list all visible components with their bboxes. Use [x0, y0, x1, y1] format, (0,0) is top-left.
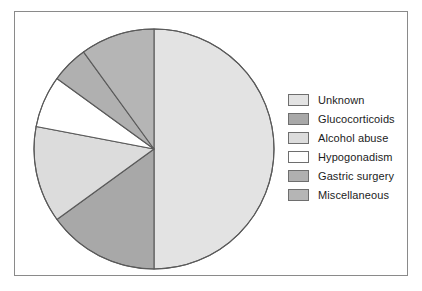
legend-item-hypogonadism[interactable]: Hypogonadism [288, 147, 416, 166]
legend-label-alcohol-abuse: Alcohol abuse [318, 132, 388, 144]
pie-slice-group [34, 29, 274, 269]
legend-swatch-gastric-surgery [288, 170, 309, 182]
legend-swatch-unknown [288, 94, 309, 106]
pie-chart-svg [31, 26, 277, 272]
legend-item-glucocorticoids[interactable]: Glucocorticoids [288, 109, 416, 128]
legend-swatch-glucocorticoids [288, 113, 309, 125]
legend-label-glucocorticoids: Glucocorticoids [318, 113, 395, 125]
legend-label-miscellaneous: Miscellaneous [318, 189, 389, 201]
pie-slice-unknown[interactable] [154, 29, 274, 269]
legend: Unknown Glucocorticoids Alcohol abuse Hy… [288, 90, 416, 204]
legend-swatch-miscellaneous [288, 189, 309, 201]
legend-swatch-hypogonadism [288, 151, 309, 163]
legend-swatch-alcohol-abuse [288, 132, 309, 144]
legend-label-hypogonadism: Hypogonadism [318, 151, 393, 163]
figure-frame: Unknown Glucocorticoids Alcohol abuse Hy… [14, 11, 408, 276]
legend-item-unknown[interactable]: Unknown [288, 90, 416, 109]
legend-item-alcohol-abuse[interactable]: Alcohol abuse [288, 128, 416, 147]
legend-label-gastric-surgery: Gastric surgery [318, 170, 394, 182]
legend-label-unknown: Unknown [318, 94, 365, 106]
legend-item-gastric-surgery[interactable]: Gastric surgery [288, 166, 416, 185]
pie-chart [31, 26, 277, 272]
legend-item-miscellaneous[interactable]: Miscellaneous [288, 185, 416, 204]
